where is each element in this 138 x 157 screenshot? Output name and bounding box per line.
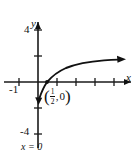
coordinate-comma: , — [56, 91, 59, 102]
x-intercept-dot — [45, 80, 49, 84]
curve-down-arrow-icon — [35, 97, 42, 105]
fraction-numerator: 1 — [51, 88, 55, 96]
asymptote-label: x = 0 — [21, 142, 42, 152]
x-tick-label-neg1: -1 — [9, 84, 18, 95]
graph-figure: y x 4 -4 -1 x = 0 ( 1 2 , 0 ) — [0, 0, 138, 157]
fraction-one-half: 1 2 — [50, 88, 55, 106]
fraction-denominator: 2 — [51, 98, 55, 106]
x-intercept-label: ( 1 2 , 0 ) — [44, 88, 71, 106]
close-paren: ) — [65, 88, 71, 105]
open-paren: ( — [44, 88, 50, 105]
x-axis-label: x — [126, 72, 131, 83]
y-axis-label: y — [31, 18, 36, 29]
y-tick-label-neg4: -4 — [20, 126, 29, 137]
y-tick-label-4: 4 — [24, 24, 30, 35]
curve-right-arrow-icon — [117, 56, 126, 63]
